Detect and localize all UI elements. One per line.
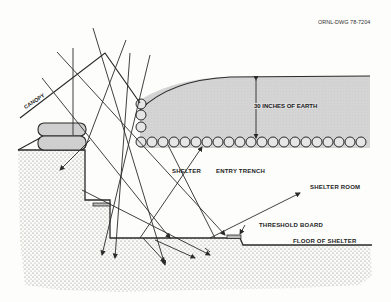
step-board — [93, 203, 110, 206]
drawing-id: ORNL-DWG 78-7204 — [318, 19, 370, 25]
earth-depth-label: 30 INCHES OF EARTH — [253, 103, 318, 109]
shelter-radiation-diagram: ORNL-DWG 78-7204 CANOPY 30 INCHES OF EAR… — [0, 0, 391, 302]
floor-of-shelter-label: FLOOR OF SHELTER — [293, 238, 356, 244]
threshold-board-label: THRESHOLD BOARD — [259, 222, 323, 228]
entry-trench-label: ENTRY TRENCH — [216, 168, 265, 174]
threshold-board — [227, 235, 241, 239]
diagram-canvas — [0, 0, 391, 302]
canopy-line — [20, 53, 140, 118]
shelter-label: SHELTER — [172, 168, 201, 174]
shelter-room-label: SHELTER ROOM — [310, 184, 360, 190]
sandbags — [38, 123, 86, 150]
